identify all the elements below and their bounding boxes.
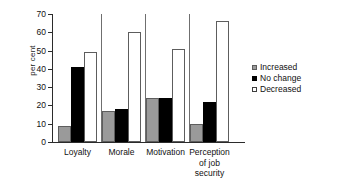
y-axis-title: per cent — [28, 31, 37, 91]
legend-item-label: No change — [260, 73, 301, 84]
y-tick-label: 10 — [37, 119, 46, 128]
y-tick-mark — [48, 51, 52, 52]
y-tick-mark — [48, 142, 52, 143]
legend-item-decreased[interactable]: Decreased — [252, 84, 301, 95]
y-tick-label: 20 — [37, 101, 46, 110]
bar-group — [146, 14, 185, 142]
y-tick-label: 60 — [37, 28, 46, 37]
bar-group — [190, 14, 229, 142]
bar-group — [58, 14, 97, 142]
category-label-line: of job — [177, 158, 243, 169]
y-tick-label: 40 — [37, 65, 46, 74]
bar-decreased — [128, 32, 141, 142]
bar-increased — [146, 98, 159, 142]
bar-chart: per cent 010203040506070 LoyaltyMoraleMo… — [0, 0, 337, 189]
legend-item-nochange[interactable]: No change — [252, 73, 301, 84]
y-tick-mark — [48, 32, 52, 33]
y-tick-mark — [48, 69, 52, 70]
legend-item-label: Increased — [260, 62, 297, 73]
y-tick-label: 30 — [37, 83, 46, 92]
bar-nochange — [71, 67, 84, 142]
bar-increased — [102, 111, 115, 142]
legend-item-label: Decreased — [260, 84, 301, 95]
y-tick-mark — [48, 14, 52, 15]
bar-increased — [190, 124, 203, 142]
y-axis-line — [52, 14, 53, 143]
bar-increased — [58, 126, 71, 142]
y-tick-label: 50 — [37, 46, 46, 55]
y-tick-label: 70 — [37, 10, 46, 19]
bar-nochange — [115, 109, 128, 142]
y-tick-label: 0 — [41, 138, 46, 147]
legend-swatch-icon — [252, 65, 257, 70]
bar-decreased — [216, 21, 229, 142]
bar-nochange — [203, 102, 216, 142]
category-label-line: Perception — [177, 147, 243, 158]
category-label-line: security — [177, 168, 243, 179]
legend-swatch-icon — [252, 87, 257, 92]
y-tick-mark — [48, 124, 52, 125]
bar-decreased — [84, 52, 97, 142]
bar-decreased — [172, 49, 185, 142]
legend-swatch-icon — [252, 76, 257, 81]
legend-item-increased[interactable]: Increased — [252, 62, 301, 73]
y-tick-mark — [48, 105, 52, 106]
y-tick-mark — [48, 87, 52, 88]
category-label: Perceptionof jobsecurity — [177, 147, 243, 179]
bar-group — [102, 14, 141, 142]
bar-nochange — [159, 98, 172, 142]
plot-area: 010203040506070 — [52, 14, 245, 143]
x-axis-line — [52, 142, 245, 143]
chart-legend: IncreasedNo changeDecreased — [252, 62, 301, 95]
